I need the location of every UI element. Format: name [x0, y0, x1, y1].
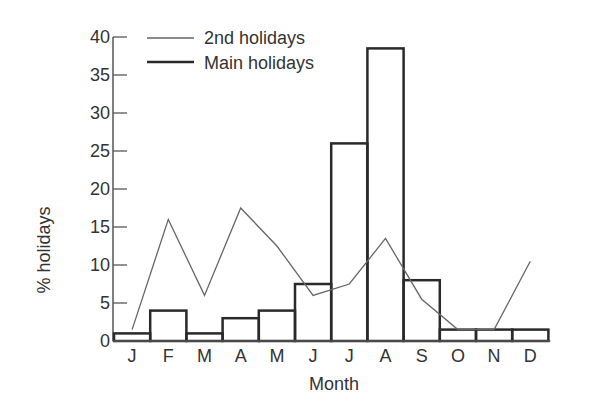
- y-tick-label: 5: [100, 293, 110, 313]
- bar-6: [331, 143, 367, 341]
- y-tick-label: 15: [90, 217, 110, 237]
- legend-label-2nd-holidays: 2nd holidays: [204, 28, 305, 48]
- x-axis-tick-labels: JFMAMJJASOND: [128, 346, 537, 366]
- x-tick-label: J: [345, 346, 354, 366]
- y-tick-label: 30: [90, 103, 110, 123]
- y-axis-title: % holidays: [34, 206, 54, 293]
- x-tick-label: J: [128, 346, 137, 366]
- bar-5: [295, 284, 331, 341]
- y-tick-label: 20: [90, 179, 110, 199]
- x-tick-label: J: [309, 346, 318, 366]
- x-axis-title: Month: [309, 374, 359, 394]
- bar-11: [512, 330, 548, 341]
- x-tick-label: A: [235, 346, 247, 366]
- bar-4: [259, 311, 295, 341]
- y-tick-label: 25: [90, 141, 110, 161]
- bar-3: [223, 318, 259, 341]
- bar-9: [440, 330, 476, 341]
- y-tick-label: 0: [100, 331, 110, 351]
- bar-2: [186, 333, 222, 341]
- x-tick-label: M: [269, 346, 284, 366]
- y-axis: 0510152025303540: [90, 27, 127, 351]
- x-tick-label: M: [197, 346, 212, 366]
- y-tick-label: 40: [90, 27, 110, 47]
- x-tick-label: A: [379, 346, 391, 366]
- x-tick-label: O: [451, 346, 465, 366]
- legend-label-main-holidays: Main holidays: [204, 53, 314, 73]
- x-tick-label: N: [488, 346, 501, 366]
- x-tick-label: S: [416, 346, 428, 366]
- bar-1: [150, 311, 186, 341]
- x-tick-label: D: [524, 346, 537, 366]
- main-holidays-bars: [114, 48, 548, 341]
- y-tick-label: 35: [90, 65, 110, 85]
- holiday-chart: 0510152025303540 JFMAMJJASOND Month % ho…: [0, 0, 589, 413]
- x-tick-label: F: [163, 346, 174, 366]
- bar-7: [367, 48, 403, 341]
- bar-0: [114, 333, 150, 341]
- legend: 2nd holidays Main holidays: [147, 28, 314, 73]
- bar-10: [476, 330, 512, 341]
- y-tick-label: 10: [90, 255, 110, 275]
